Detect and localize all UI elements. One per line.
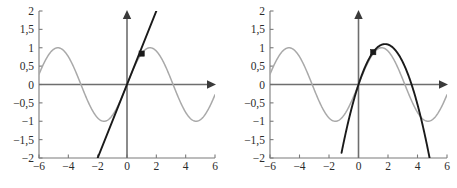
y-tick-label: 0,5 — [20, 60, 35, 73]
x-tick-label: 2 — [385, 160, 391, 172]
x-axis-arrow-icon — [207, 80, 216, 88]
x-tick-label: 4 — [415, 160, 421, 172]
y-axis-arrow-icon — [123, 10, 131, 19]
y-tick-label: 0 — [259, 79, 265, 91]
chart-panel-left: −6−4−2024621,510,50−0,5−1−1,5−2 — [0, 0, 228, 188]
y-tick-label: 2 — [259, 5, 265, 17]
y-tick-label: 1,5 — [251, 23, 266, 36]
plot-right: −6−4−2024621,510,50−0,5−1−1,5−2 — [228, 0, 457, 188]
point-marker — [139, 51, 144, 56]
plot-left: −6−4−2024621,510,50−0,5−1−1,5−2 — [0, 0, 228, 188]
chart-panel-right: −6−4−2024621,510,50−0,5−1−1,5−2 — [228, 0, 457, 188]
y-axis-arrow-icon — [354, 10, 362, 19]
x-tick-label: 4 — [183, 160, 189, 172]
y-tick-label: 2 — [28, 5, 34, 17]
approximation-curve — [342, 44, 430, 160]
x-tick-label: −2 — [323, 160, 335, 172]
y-tick-label: 1 — [259, 42, 265, 54]
x-tick-label: 0 — [124, 160, 130, 172]
y-tick-label: 0 — [28, 79, 34, 91]
y-tick-label: 0,5 — [251, 60, 266, 73]
y-tick-label: −2 — [253, 152, 265, 164]
y-tick-label: −0,5 — [13, 97, 34, 110]
y-tick-label: −1 — [22, 115, 34, 127]
y-tick-label: 1,5 — [20, 23, 35, 36]
y-tick-label: −1,5 — [244, 134, 265, 147]
x-tick-label: −2 — [92, 160, 104, 172]
x-tick-label: 0 — [356, 160, 362, 172]
x-tick-label: 6 — [444, 160, 450, 172]
x-tick-label: −4 — [293, 160, 305, 172]
y-tick-label: −1 — [253, 115, 265, 127]
y-tick-label: −1,5 — [13, 134, 34, 147]
x-tick-label: 6 — [212, 160, 218, 172]
x-tick-label: −4 — [62, 160, 74, 172]
y-tick-label: 1 — [28, 42, 34, 54]
point-marker — [371, 50, 376, 55]
y-tick-label: −2 — [22, 152, 34, 164]
x-tick-label: 2 — [153, 160, 159, 172]
x-axis-arrow-icon — [439, 80, 448, 88]
two-panel-sine-approximation-figure: −6−4−2024621,510,50−0,5−1−1,5−2 −6−4−202… — [0, 0, 457, 188]
x-tick-label: −6 — [264, 160, 276, 172]
x-tick-label: −6 — [33, 160, 45, 172]
y-tick-label: −0,5 — [244, 97, 265, 110]
